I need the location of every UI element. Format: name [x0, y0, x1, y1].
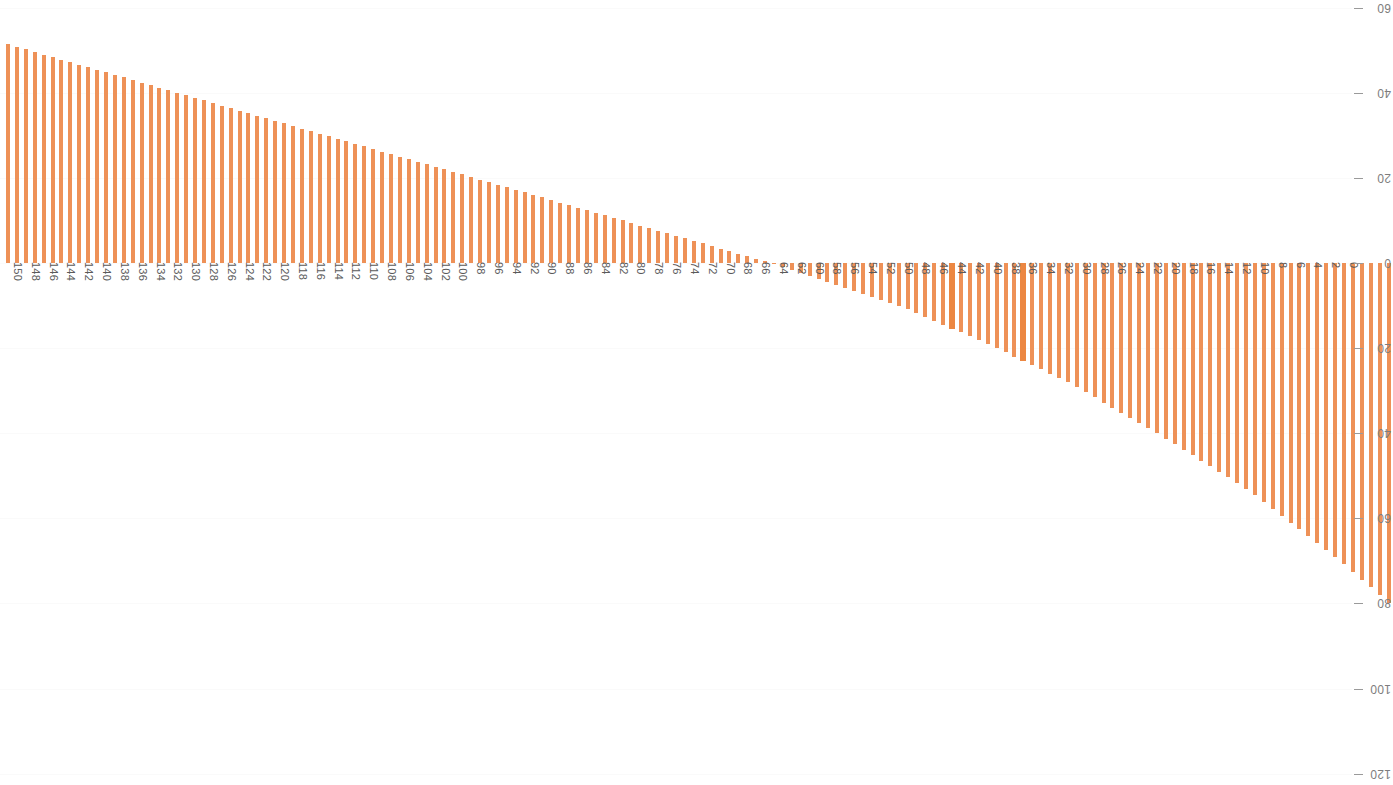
bar — [1155, 263, 1159, 433]
category-tick-label: 82 — [618, 262, 629, 275]
value-tick-mark — [1354, 178, 1363, 179]
bar — [1137, 263, 1141, 423]
bar — [1048, 263, 1052, 374]
bar — [1102, 263, 1106, 403]
bar — [1030, 263, 1034, 365]
bar — [879, 263, 883, 300]
bar — [790, 263, 794, 270]
bar — [1244, 263, 1248, 489]
value-tick-mark — [1354, 433, 1363, 434]
category-tick-label: 108 — [386, 262, 397, 281]
value-tick-mark — [1354, 263, 1363, 264]
bar — [1020, 263, 1026, 361]
value-tick-label: 60 — [1377, 511, 1391, 525]
category-tick-label: 38 — [1010, 262, 1021, 275]
category-tick-label: 150 — [12, 262, 23, 281]
category-tick-label: 134 — [155, 262, 166, 281]
bar — [1110, 263, 1114, 408]
value-tick-label: 120 — [1370, 767, 1391, 781]
bar — [1226, 263, 1230, 477]
category-tick-label: 18 — [1188, 262, 1199, 275]
value-tick-mark — [1354, 603, 1363, 604]
category-tick-label: 58 — [831, 262, 842, 275]
category-tick-label: 68 — [742, 262, 753, 275]
value-tick-mark — [1354, 93, 1363, 94]
bar — [968, 263, 972, 336]
category-tick-label: 6 — [1295, 262, 1306, 268]
category-tick-label: 144 — [65, 262, 76, 281]
bar — [1235, 263, 1239, 483]
category-tick-label: 14 — [1223, 262, 1234, 275]
bar — [995, 263, 999, 348]
category-tick-label: 126 — [226, 262, 237, 281]
category-tick-label: 62 — [796, 262, 807, 275]
value-tick-label: 60 — [1377, 1, 1391, 15]
value-tick-label: 40 — [1377, 86, 1391, 100]
value-tick-label: 100 — [1370, 682, 1391, 696]
category-tick-label: 136 — [137, 262, 148, 281]
category-tick-label: 78 — [653, 262, 664, 275]
bar — [986, 263, 990, 344]
value-tick-mark — [1354, 689, 1363, 690]
category-tick-label: 120 — [279, 262, 290, 281]
bar — [1297, 263, 1301, 529]
category-tick-label: 112 — [350, 262, 361, 280]
category-tick-label: 114 — [333, 262, 344, 280]
bar — [1271, 263, 1275, 509]
bar — [1075, 263, 1079, 387]
category-tick-label: 12 — [1241, 262, 1252, 275]
bar — [1208, 263, 1212, 466]
category-tick-label: 56 — [849, 262, 860, 275]
value-tick-mark — [1354, 348, 1363, 349]
bar — [1306, 263, 1310, 536]
bar — [1093, 263, 1097, 397]
bar — [932, 263, 936, 321]
category-tick-label: 116 — [315, 262, 326, 280]
category-tick-label: 128 — [208, 262, 219, 281]
bar — [1199, 263, 1203, 461]
value-tick-label: 20 — [1377, 171, 1391, 185]
bar — [825, 263, 829, 282]
value-tick-label: 0 — [1384, 256, 1391, 270]
category-tick-label: 94 — [511, 262, 522, 275]
category-tick-label: 110 — [368, 262, 379, 280]
value-tick-label: 20 — [1377, 341, 1391, 355]
category-tick-label: 106 — [404, 262, 415, 281]
plot-area — [0, 0, 1352, 785]
category-tick-label: 92 — [529, 262, 540, 275]
category-tick-label: 28 — [1099, 262, 1110, 275]
bar — [1289, 263, 1293, 523]
category-tick-label: 20 — [1170, 262, 1181, 275]
category-tick-label: 50 — [903, 262, 914, 275]
value-axis: 604020020406080100120 — [1352, 0, 1393, 785]
bar — [1253, 263, 1257, 495]
category-tick-label: 54 — [867, 262, 878, 275]
category-tick-label: 84 — [600, 262, 611, 275]
category-tick-label: 102 — [440, 262, 451, 281]
bar — [1315, 263, 1319, 543]
bar — [1191, 263, 1195, 455]
category-tick-label: 104 — [422, 262, 433, 281]
bar — [1164, 263, 1168, 439]
category-tick-label: 86 — [582, 262, 593, 275]
category-tick-label: 44 — [956, 262, 967, 275]
bar — [843, 263, 847, 288]
category-tick-label: 26 — [1116, 262, 1127, 275]
bar — [1146, 263, 1150, 428]
category-tick-label: 32 — [1063, 262, 1074, 275]
category-tick-label: 66 — [760, 262, 771, 275]
category-tick-label: 148 — [30, 262, 41, 281]
bar — [1128, 263, 1132, 418]
category-tick-label: 122 — [261, 262, 272, 281]
category-tick-label: 146 — [48, 262, 59, 281]
category-tick-label: 46 — [938, 262, 949, 275]
category-tick-label: 76 — [671, 262, 682, 275]
category-tick-label: 60 — [814, 262, 825, 275]
chart-canvas: 1501481461441421401381361341321301281261… — [0, 0, 1393, 785]
category-tick-label: 80 — [635, 262, 646, 275]
bar-series — [0, 0, 1352, 785]
bar — [897, 263, 901, 306]
category-tick-label: 10 — [1259, 262, 1270, 275]
bar — [1012, 263, 1016, 357]
category-tick-label: 4 — [1312, 262, 1323, 268]
